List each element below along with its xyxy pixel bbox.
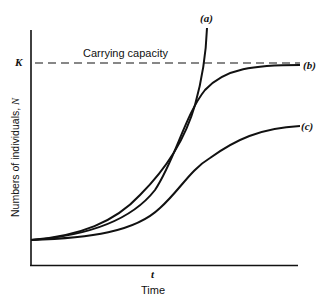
x-tick-label-t: t [151,268,154,280]
curve-a [31,28,207,240]
curve-c [31,126,300,240]
plot-area [0,0,323,300]
curve-c-label: (c) [301,120,313,132]
curve-b [31,65,300,240]
y-axis-label-text: Numbers of individuals, [9,105,21,217]
k-tick-label: K [15,56,22,68]
x-axis-label: Time [141,284,165,296]
curve-a-label: (a) [200,12,213,24]
curve-b-label: (b) [303,59,316,71]
carrying-capacity-label: Carrying capacity [83,47,168,59]
y-axis-label-variable: N [10,98,21,105]
logistic-growth-diagram: K Carrying capacity (a) (b) (c) Numbers … [0,0,323,300]
y-axis-label: Numbers of individuals, N [9,99,21,217]
